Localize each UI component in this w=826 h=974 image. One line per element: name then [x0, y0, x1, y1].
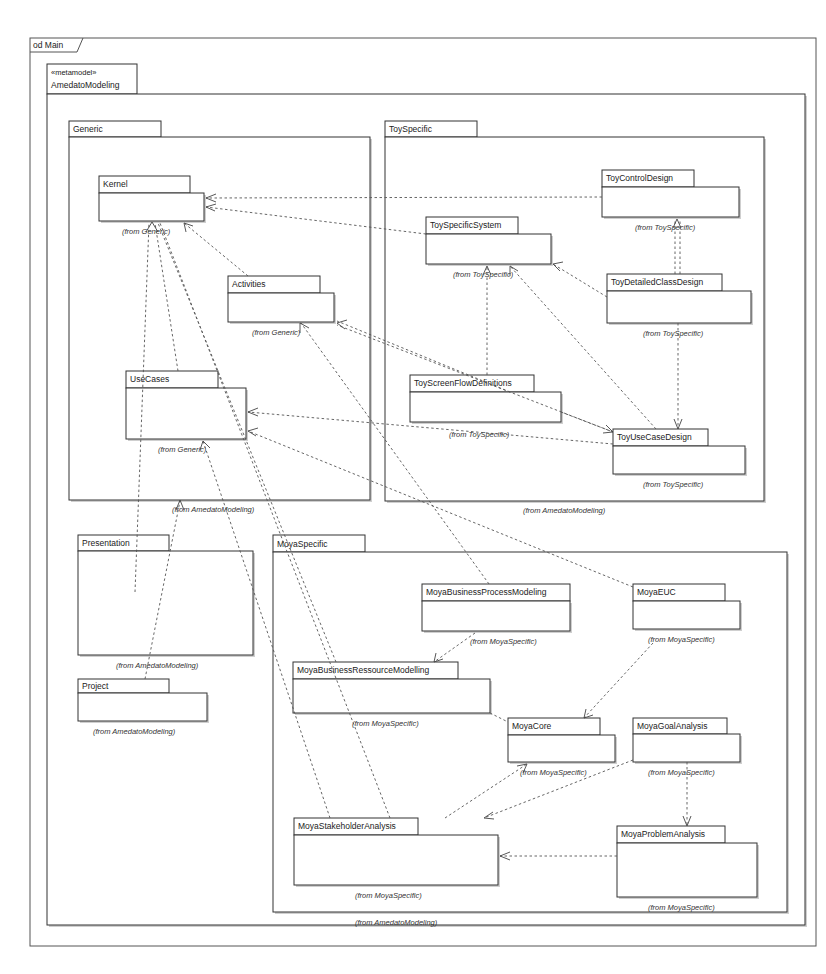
package-name: ToyControlDesign: [606, 173, 673, 183]
package-name: ToySpecific: [389, 124, 433, 134]
package-name: AmedatoModeling: [51, 80, 120, 90]
package-owner: (from Generic): [252, 328, 301, 337]
package-name: Project: [82, 681, 109, 691]
package-stereotype: «metamodel»: [51, 68, 96, 77]
package-name: MoyaSpecific: [277, 539, 328, 549]
package-owner: (from AmedatoModeling): [116, 661, 199, 670]
package-name: ToyUseCaseDesign: [617, 432, 692, 442]
package-owner: (from Generic): [158, 445, 207, 454]
package-name: MoyaCore: [512, 721, 551, 731]
package-owner: (from MoyaSpecific): [648, 768, 715, 777]
uml-package-diagram: od Main «metamodel» AmedatoModeling Gene…: [0, 0, 826, 974]
package-name: ToyDetailedClassDesign: [611, 277, 703, 287]
package-name: MoyaBusinessRessourceModelling: [297, 665, 430, 675]
package-name: UseCases: [130, 374, 169, 384]
package-owner: (from AmedatoModeling): [523, 506, 606, 515]
package-name: Presentation: [82, 538, 130, 548]
package-name: ToyScreenFlowDefinitions: [414, 378, 512, 388]
package-name: MoyaEUC: [637, 587, 676, 597]
package-owner: (from MoyaSpecific): [352, 719, 419, 728]
package-name: MoyaGoalAnalysis: [637, 721, 707, 731]
package-owner: (from MoyaSpecific): [520, 768, 587, 777]
package-owner: (from MoyaSpecific): [648, 635, 715, 644]
package-owner: (from AmedatoModeling): [93, 727, 176, 736]
package-name: MoyaBusinessProcessModeling: [426, 587, 547, 597]
package-owner: (from MoyaSpecific): [355, 891, 422, 900]
package-name: MoyaProblemAnalysis: [621, 829, 705, 839]
frame-label: od Main: [33, 40, 64, 50]
package-owner: (from AmedatoModeling): [172, 505, 255, 514]
package-name: MoyaStakeholderAnalysis: [298, 821, 396, 831]
package-name: Activities: [232, 279, 266, 289]
package-name: Generic: [73, 124, 104, 134]
package-owner: (from MoyaSpecific): [648, 903, 715, 912]
package-owner: (from ToySpecific): [635, 223, 696, 232]
package-owner: (from AmedatoModeling): [355, 918, 438, 927]
package-owner: (from MoyaSpecific): [470, 637, 537, 646]
package-name: ToySpecificSystem: [430, 220, 501, 230]
package-presentation[interactable]: Presentation (from AmedatoModeling): [78, 535, 255, 670]
package-name: Kernel: [103, 179, 128, 189]
package-owner: (from ToySpecific): [643, 329, 704, 338]
package-owner: (from ToySpecific): [643, 480, 704, 489]
package-owner: (from ToySpecific): [449, 430, 510, 439]
